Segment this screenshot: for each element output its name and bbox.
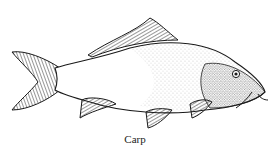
carp-illustration [0, 0, 270, 135]
caption: Carp [0, 133, 270, 145]
anal-fin [146, 109, 172, 128]
tail-fin [12, 52, 60, 110]
